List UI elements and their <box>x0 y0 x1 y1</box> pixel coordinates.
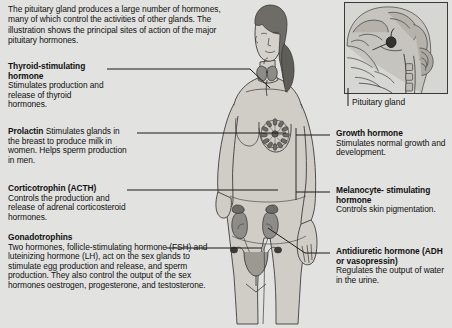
caption-body: Stimulates normal growth and development… <box>336 139 448 158</box>
caption-antidiuretic-hormone: Antidiuretic hormone (ADH or vasopressin… <box>336 247 448 285</box>
caption-body: Controls the production and release of a… <box>8 194 132 223</box>
female-figure-illustration <box>212 0 340 328</box>
intro-paragraph: The pituitary gland produces a large num… <box>8 4 226 46</box>
caption-thyroid-stimulating-hormone: Thyroid-stimulating hormone Stimulates p… <box>8 62 112 110</box>
caption-body: Regulates the output of water in the uri… <box>336 266 448 285</box>
caption-growth-hormone: Growth hormone Stimulates normal growth … <box>336 129 448 158</box>
caption-heading: Melanocyte- stimulating hormone <box>336 186 448 205</box>
caption-body: Stimulates production and release of thy… <box>8 81 112 110</box>
caption-heading: Antidiuretic hormone (ADH or vasopressin… <box>336 247 448 266</box>
caption-prolactin: Prolactin Stimulates glands in the breas… <box>8 127 130 165</box>
caption-gonadotrophins: Gonadotrophins Two hormones, follicle-st… <box>8 233 216 291</box>
head-sagittal-inset <box>344 2 448 94</box>
caption-text: Prolactin Stimulates glands in the breas… <box>8 127 130 165</box>
caption-body: Two hormones, follicle-stimulating hormo… <box>8 243 216 291</box>
pituitary-hormones-illustration: The pituitary gland produces a large num… <box>0 0 452 328</box>
caption-heading: Thyroid-stimulating hormone <box>8 62 112 81</box>
pituitary-gland-label: Pituitary gland <box>352 98 405 108</box>
caption-corticotrophin-acth: Corticotrophin (ACTH) Controls the produ… <box>8 184 132 222</box>
caption-heading: Prolactin <box>8 126 43 136</box>
caption-melanocyte-stimulating-hormone: Melanocyte- stimulating hormone Controls… <box>336 186 448 215</box>
caption-body: Controls skin pigmentation. <box>336 205 448 215</box>
